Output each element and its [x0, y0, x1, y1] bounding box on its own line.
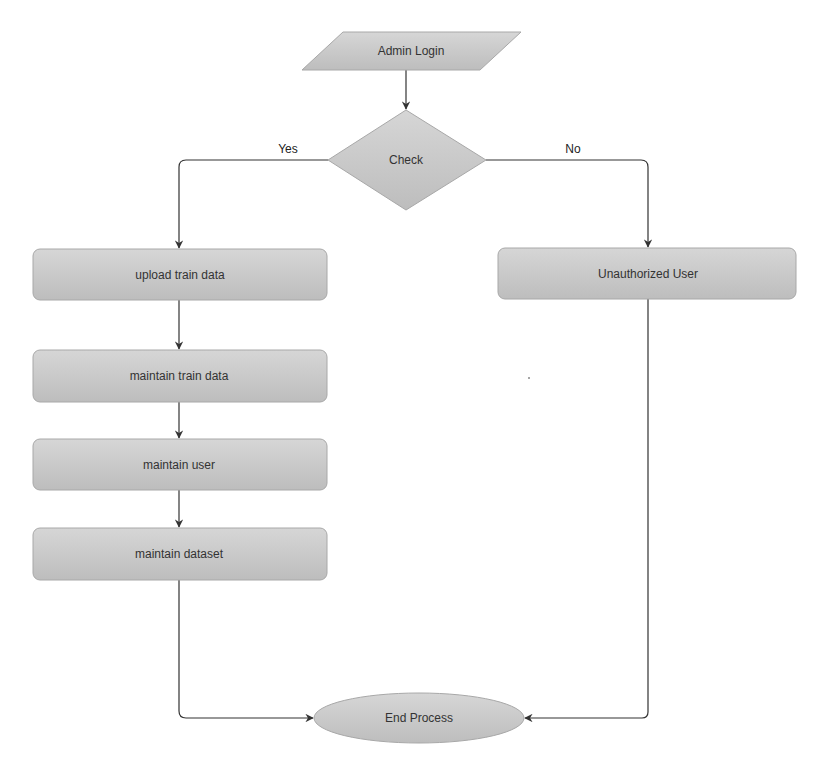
node-label-upload-train-data: upload train data	[135, 268, 225, 282]
scan-speck	[528, 377, 530, 379]
node-label-end-process: End Process	[385, 711, 453, 725]
edge-check-yes	[179, 160, 328, 248]
node-label-maintain-dataset: maintain dataset	[135, 547, 224, 561]
node-upload-train-data: upload train data	[33, 249, 327, 300]
node-maintain-user: maintain user	[33, 439, 327, 490]
node-maintain-dataset: maintain dataset	[33, 528, 327, 580]
node-unauthorized-user: Unauthorized User	[498, 248, 796, 299]
node-check: Check	[328, 110, 486, 210]
flowchart-canvas: Yes No Admin Login Check upload train da…	[0, 0, 824, 765]
edge-check-no	[486, 160, 648, 247]
edge-label-yes: Yes	[278, 142, 298, 156]
node-label-maintain-user: maintain user	[143, 458, 215, 472]
node-label-maintain-train-data: maintain train data	[130, 369, 229, 383]
edge-unauthorized-to-end	[525, 299, 648, 718]
node-label-unauthorized-user: Unauthorized User	[598, 267, 698, 281]
node-label-check: Check	[389, 153, 424, 167]
node-maintain-train-data: maintain train data	[33, 350, 327, 402]
edge-dataset-to-end	[179, 580, 313, 718]
node-admin-login: Admin Login	[302, 32, 521, 70]
node-end-process: End Process	[314, 693, 524, 743]
node-label-admin-login: Admin Login	[378, 44, 445, 58]
edge-label-no: No	[565, 142, 581, 156]
